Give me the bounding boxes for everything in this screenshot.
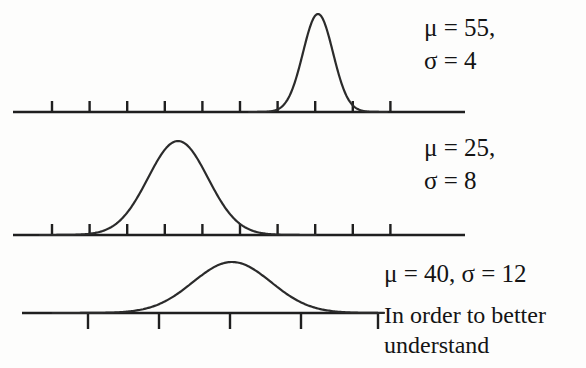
parameter-label-dist-1: μ = 55, σ = 4 [424, 12, 495, 77]
gaussian-curve-dist-3 [53, 262, 384, 313]
figure-page: μ = 55, σ = 4 μ = 25, σ = 8 μ = 40, σ = … [0, 0, 586, 368]
gaussian-curve-dist-2 [40, 141, 316, 235]
parameter-label-dist-2-line2: σ = 8 [424, 165, 495, 198]
parameter-label-dist-3: μ = 40, σ = 12 [384, 258, 527, 291]
gaussian-curve-dist-1 [249, 14, 387, 112]
parameter-label-dist-1-line2: σ = 4 [424, 45, 495, 78]
parameter-label-dist-1-line1: μ = 55, [424, 12, 495, 45]
axes-layer [13, 101, 465, 329]
parameter-label-dist-2: μ = 25, σ = 8 [424, 132, 495, 197]
body-text-line-2: understand [384, 330, 546, 360]
body-text-block: In order to better understand [384, 300, 546, 360]
body-text-line-1: In order to better [384, 300, 546, 330]
curves-layer [40, 14, 387, 313]
parameter-label-dist-2-line1: μ = 25, [424, 132, 495, 165]
parameter-label-dist-3-line1: μ = 40, σ = 12 [384, 258, 527, 291]
